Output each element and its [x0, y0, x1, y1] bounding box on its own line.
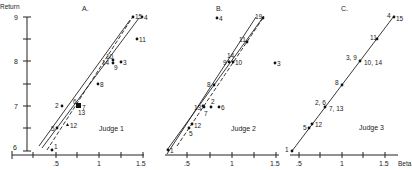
y-axis-title: Return	[0, 3, 20, 10]
y-tick-8: 8	[14, 58, 18, 65]
point-label: 1	[170, 147, 174, 154]
panel-c: C. .5 1 1.5 Beta 1 2, 6 3,	[285, 5, 412, 167]
point-label: 15	[396, 15, 404, 22]
point-label: 8	[100, 81, 104, 88]
x-axis-title: Beta	[398, 160, 412, 167]
point-label: 13	[194, 104, 202, 111]
panel-b-regression-lines	[167, 16, 264, 154]
point-label: 7, 13	[329, 105, 344, 112]
beta-return-scatter-figure: Return 9 8 7 6 A. .5 1 1.5	[0, 0, 412, 170]
panel-c-x-tick-05: .5	[296, 160, 302, 167]
panel-b-point-labels: 1 2 3 4 5 6 7 8 9 10 11 12 13 14 19	[170, 13, 281, 154]
point-label: 3	[123, 59, 127, 66]
point-label: 12	[70, 122, 78, 129]
point-label: 2, 6	[315, 99, 326, 106]
panel-a-x-tick-1: 1	[97, 160, 101, 167]
panel-c-title: C.	[341, 5, 348, 12]
panel-c-caption: Judge 3	[359, 124, 384, 132]
panel-a-x-tick-15: 1.5	[136, 160, 146, 167]
point-label: 11	[239, 36, 246, 43]
point-label: 10	[235, 59, 243, 66]
panel-a-caption: Judge 1	[99, 125, 124, 133]
point-label: 11	[370, 34, 377, 41]
point-label: 11	[139, 36, 146, 43]
point-label: 3	[277, 60, 281, 67]
point-label: 5	[51, 125, 55, 132]
point-label: 12	[194, 122, 202, 129]
point-label: 2	[211, 98, 215, 105]
panel-b-x-tick-15: 1.5	[270, 160, 280, 167]
panel-b-x-tick-05: .5	[184, 160, 190, 167]
y-tick-6: 6	[13, 144, 17, 151]
point-label: 4	[387, 12, 391, 19]
panel-a-title: A.	[82, 5, 89, 12]
panel-c-x-axis	[290, 152, 398, 158]
point-label: 19	[255, 13, 263, 20]
y-axis	[23, 17, 31, 151]
point-label: 10, 14	[364, 59, 382, 66]
point-label: 2	[55, 102, 59, 109]
point-label: 5	[189, 130, 193, 137]
point-label: 8	[207, 81, 211, 88]
panel-a-x-tick-05: .5	[53, 160, 59, 167]
panel-b-title: B.	[216, 5, 223, 12]
point-label: 14	[102, 59, 110, 66]
panel-c-x-tick-1: 1	[340, 160, 344, 167]
panel-a: A. .5 1 1.5	[12, 5, 148, 167]
panel-b-x-axis	[165, 152, 279, 158]
point-label: 15	[135, 13, 143, 20]
point-label: 4	[144, 14, 148, 21]
point-label: 1	[285, 146, 289, 153]
point-label: 13	[78, 109, 86, 116]
panel-b-points	[167, 17, 277, 152]
point-label: 6	[221, 104, 225, 111]
point-label: 9	[114, 64, 118, 71]
panel-a-x-axis	[12, 151, 144, 159]
point-label: 4	[219, 15, 223, 22]
point-label: 1	[54, 143, 58, 150]
point-label: 8	[335, 79, 339, 86]
point-label: 12	[315, 121, 323, 128]
y-tick-9: 9	[14, 14, 18, 21]
panel-c-x-tick-15: 1.5	[379, 160, 389, 167]
point-label: 9	[223, 59, 227, 66]
y-tick-7: 7	[14, 103, 18, 110]
panel-b-x-tick-1: 1	[230, 160, 234, 167]
point-label: 5	[303, 124, 307, 131]
panel-b-caption: Judge 2	[231, 125, 256, 133]
panel-a-points	[51, 16, 144, 152]
point-label: 6	[73, 98, 77, 105]
point-label: 7	[204, 110, 208, 117]
panel-b: B. .5 1 1.5	[165, 5, 281, 167]
point-label: 14	[227, 52, 235, 59]
point-label: 3, 9	[346, 54, 357, 61]
